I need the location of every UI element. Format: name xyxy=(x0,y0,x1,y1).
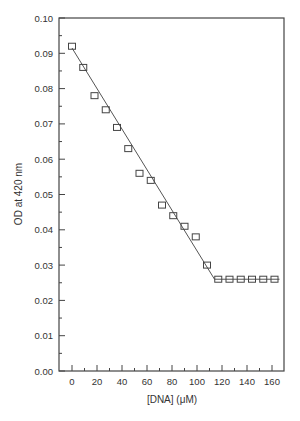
data-point xyxy=(215,276,222,282)
data-point xyxy=(271,276,278,282)
data-point xyxy=(226,276,233,282)
y-tick-label: 0.10 xyxy=(35,13,54,24)
fit-line xyxy=(72,48,280,279)
data-point xyxy=(237,276,244,282)
y-axis-label: OD at 420 nm xyxy=(13,163,24,225)
x-tick-label: 60 xyxy=(142,376,153,387)
x-tick-label: 0 xyxy=(69,376,74,387)
data-point xyxy=(91,93,98,99)
y-tick-label: 0.01 xyxy=(35,330,54,341)
x-tick-label: 20 xyxy=(92,376,103,387)
data-point xyxy=(204,262,211,268)
data-points xyxy=(69,43,279,282)
data-point xyxy=(192,234,199,240)
y-tick-label: 0.06 xyxy=(35,154,54,165)
x-axis-label: [DNA] (μM) xyxy=(147,394,197,405)
data-point xyxy=(159,202,166,208)
y-tick-label: 0.03 xyxy=(35,260,54,271)
y-tick-label: 0.07 xyxy=(35,118,54,129)
plot-frame xyxy=(59,18,284,371)
x-tick-label: 100 xyxy=(189,376,205,387)
x-tick-label: 120 xyxy=(214,376,230,387)
data-point xyxy=(69,43,76,49)
x-tick-label: 40 xyxy=(117,376,128,387)
y-tick-label: 0.02 xyxy=(35,295,54,306)
data-point xyxy=(249,276,256,282)
x-tick-label: 160 xyxy=(264,376,280,387)
y-tick-label: 0.00 xyxy=(35,366,54,377)
y-axis: 0.000.010.020.030.040.050.060.070.080.09… xyxy=(35,13,66,377)
data-point xyxy=(147,177,154,183)
y-tick-label: 0.04 xyxy=(35,224,54,235)
data-point xyxy=(114,124,121,130)
data-point xyxy=(260,276,267,282)
y-tick-label: 0.05 xyxy=(35,189,54,200)
chart: 0.000.010.020.030.040.050.060.070.080.09… xyxy=(0,0,300,421)
data-point xyxy=(170,213,177,219)
x-tick-label: 80 xyxy=(167,376,178,387)
data-point xyxy=(102,107,109,113)
x-tick-label: 140 xyxy=(239,376,255,387)
data-point xyxy=(80,64,87,70)
x-axis: 020406080100120140160 xyxy=(69,365,280,387)
data-point xyxy=(136,170,143,176)
y-tick-label: 0.08 xyxy=(35,83,54,94)
data-point xyxy=(181,223,188,229)
data-point xyxy=(125,146,132,152)
y-tick-label: 0.09 xyxy=(35,48,54,59)
